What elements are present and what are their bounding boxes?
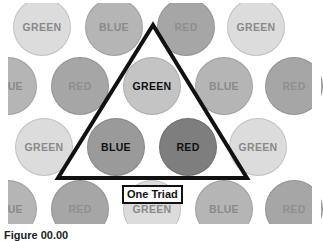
margin-top xyxy=(0,0,321,3)
margin-left xyxy=(0,0,8,240)
margin-right xyxy=(312,0,321,240)
one-triad-label: One Triad xyxy=(122,185,183,204)
figure-caption: Figure 00.00 xyxy=(4,229,68,241)
